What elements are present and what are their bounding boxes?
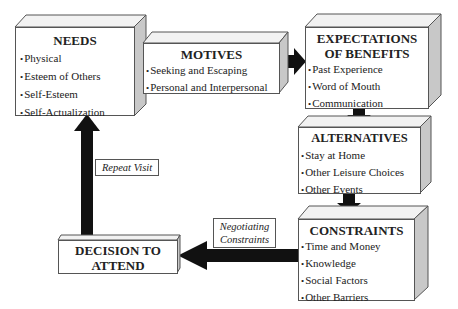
alternatives-item: Stay at Home [301,147,420,164]
negotiating-line2: Constraints [217,233,272,246]
expectations-item: Communication [308,95,428,112]
needs-item: Self-Esteem [20,86,134,104]
constraints-title: CONSTRAINTS [299,223,414,238]
needs-item: Self-Actualization [20,104,134,122]
decision-title-line2: ATTEND [59,258,177,273]
needs-item: Esteem of Others [20,68,134,86]
alternatives-item: Other Events [301,181,420,198]
needs-item: Physical [20,50,134,68]
constraints-item: Other Barriers [301,289,414,306]
needs-title: NEEDS [16,33,134,48]
arrow-decision-to-needs [74,114,100,240]
expectations-title-line1: EXPECTATIONS [306,31,428,46]
constraints-item: Knowledge [301,255,414,272]
motives-item: Personal and Interpersonal [146,79,279,96]
alternatives-item: Other Leisure Choices [301,164,420,181]
motives-item: Seeking and Escaping [146,62,279,79]
motives-title: MOTIVES [144,47,279,62]
alternatives-title: ALTERNATIVES [299,131,420,146]
expectations-item: Past Experience [308,61,428,78]
repeat-visit-label: Repeat Visit [95,159,159,176]
negotiating-constraints-label: Negotiating Constraints [213,218,276,248]
decision-title-line1: DECISION TO [59,243,177,258]
negotiating-line1: Negotiating [217,220,272,233]
constraints-item: Time and Money [301,238,414,255]
constraints-item: Social Factors [301,272,414,289]
expectations-title-line2: OF BENEFITS [306,46,428,61]
expectations-item: Word of Mouth [308,78,428,95]
